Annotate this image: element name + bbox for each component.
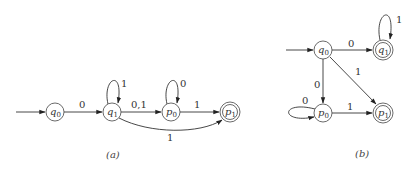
edge-label-a-q1-p1: 1: [167, 132, 173, 143]
loop-b-p0: [289, 107, 315, 118]
state-a-q0: q0: [46, 103, 64, 121]
automata-figure: 0 1 0,1 0 1 1 q0 q1 p0 p1: [0, 0, 412, 169]
state-a-p1-accepting: p1: [220, 102, 240, 122]
edge-label-b-p0-p0: 0: [302, 95, 308, 106]
caption-b: (b): [355, 148, 369, 159]
caption-a: (a): [106, 149, 120, 160]
diagram-b: 0 1 0 1 0 1 q0 q1 p0: [286, 14, 402, 159]
loop-b-q1: [379, 15, 391, 40]
edge-b-q0-p1: [330, 57, 376, 104]
edge-label-b-q0-p1: 1: [355, 66, 361, 77]
edge-label-b-q0-q1: 0: [348, 38, 354, 49]
edge-label-a-p0-p1: 1: [194, 99, 200, 110]
edge-label-b-p0-p1: 1: [347, 101, 353, 112]
state-a-p0: p0: [162, 103, 180, 121]
state-b-p0: p0: [314, 104, 332, 122]
state-b-p1-accepting: p1: [373, 103, 393, 123]
state-b-q1-accepting: q1: [373, 40, 393, 60]
edge-label-b-q1-q1: 1: [396, 14, 402, 25]
loop-a-q1: [107, 80, 119, 104]
edge-label-a-q0-q1: 0: [79, 99, 85, 110]
loop-a-p0: [166, 80, 178, 104]
state-b-q0: q0: [314, 41, 332, 59]
edge-label-a-p0-p0: 0: [180, 78, 186, 89]
diagram-a: 0 1 0,1 0 1 1 q0 q1 p0 p1: [16, 78, 240, 160]
edge-label-a-q1-p0: 0,1: [131, 99, 147, 110]
state-a-q1: q1: [103, 103, 121, 121]
edge-label-a-q1-q1: 1: [121, 78, 127, 89]
edge-label-b-q0-p0: 0: [314, 79, 320, 90]
